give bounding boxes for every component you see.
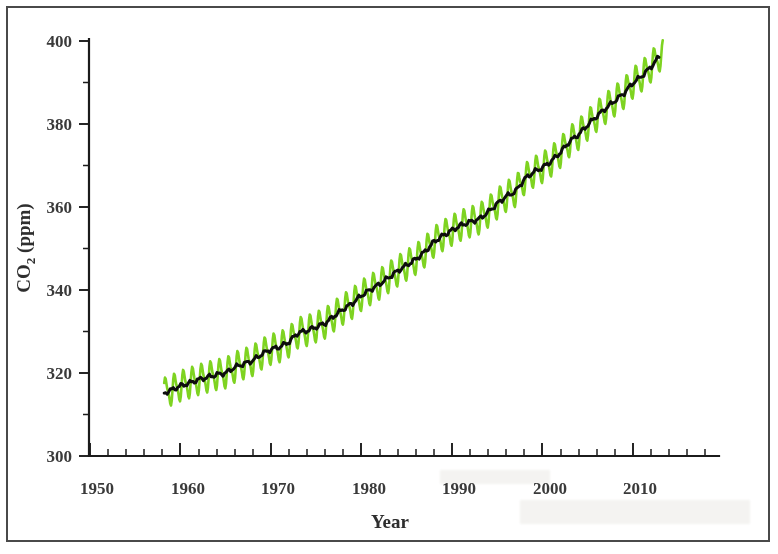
chart-svg: 300 320 340 360 380 400 CO2 (ppm) bbox=[0, 0, 778, 554]
y-tick-label: 320 bbox=[47, 364, 73, 383]
y-tick-label: 340 bbox=[47, 281, 73, 300]
co2-chart: 300 320 340 360 380 400 CO2 (ppm) bbox=[0, 0, 778, 554]
x-tick-label: 2000 bbox=[533, 479, 567, 498]
x-tick-label: 1960 bbox=[171, 479, 205, 498]
x-tick-label: 1950 bbox=[80, 479, 114, 498]
x-tick-label: 1990 bbox=[442, 479, 476, 498]
x-tick-labels: 1950 1960 1970 1980 1990 2000 2010 bbox=[80, 479, 657, 498]
series-monthly-co2 bbox=[164, 40, 663, 405]
y-tick-label: 400 bbox=[47, 32, 73, 51]
y-axis-title-base: CO bbox=[13, 264, 34, 293]
x-axis-title: Year bbox=[371, 511, 410, 532]
y-tick-label: 360 bbox=[47, 198, 73, 217]
svg-text:CO2 (ppm): CO2 (ppm) bbox=[13, 203, 38, 292]
y-axis-title: CO2 (ppm) bbox=[13, 203, 38, 292]
x-tick-label: 2010 bbox=[623, 479, 657, 498]
x-tick-label: 1980 bbox=[352, 479, 386, 498]
figure-page: 300 320 340 360 380 400 CO2 (ppm) bbox=[0, 0, 778, 554]
y-tick-labels: 300 320 340 360 380 400 bbox=[47, 32, 73, 466]
y-axis-title-unit: (ppm) bbox=[13, 203, 35, 257]
y-axis bbox=[79, 39, 89, 456]
x-axis bbox=[89, 443, 719, 456]
series-group bbox=[164, 40, 663, 405]
series-trend-co2 bbox=[164, 56, 659, 394]
x-tick-label: 1970 bbox=[261, 479, 295, 498]
y-tick-label: 300 bbox=[47, 447, 73, 466]
y-tick-label: 380 bbox=[47, 115, 73, 134]
